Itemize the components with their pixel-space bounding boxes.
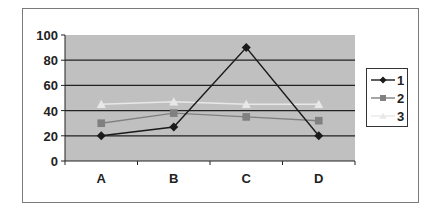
plot-area bbox=[65, 35, 355, 161]
y-axis-labels: 020406080100 bbox=[36, 28, 58, 169]
legend-entry-1: 1 bbox=[371, 73, 404, 88]
x-tick-label: B bbox=[169, 171, 178, 186]
x-axis-labels: ABCD bbox=[97, 171, 324, 186]
square-marker bbox=[380, 95, 386, 101]
x-tick-label: A bbox=[97, 171, 107, 186]
legend: 123 bbox=[366, 68, 408, 127]
legend-label: 2 bbox=[397, 91, 404, 106]
y-tick-label: 60 bbox=[44, 78, 58, 93]
x-tick-label: C bbox=[242, 171, 252, 186]
y-tick-label: 0 bbox=[51, 154, 58, 169]
legend-entry-3: 3 bbox=[371, 109, 404, 124]
y-tick-label: 100 bbox=[36, 28, 58, 43]
y-tick-label: 20 bbox=[44, 129, 58, 144]
x-tick-label: D bbox=[314, 171, 323, 186]
square-marker bbox=[170, 109, 178, 117]
y-tick-label: 80 bbox=[44, 53, 58, 68]
square-marker bbox=[315, 117, 323, 125]
legend-label: 1 bbox=[397, 73, 404, 88]
square-marker bbox=[242, 113, 250, 121]
legend-entry-2: 2 bbox=[371, 91, 404, 106]
diamond-marker bbox=[380, 77, 387, 84]
legend-label: 3 bbox=[397, 109, 404, 124]
legend-entries: 123 bbox=[367, 69, 409, 128]
y-tick-label: 40 bbox=[44, 104, 58, 119]
square-marker bbox=[97, 119, 105, 127]
